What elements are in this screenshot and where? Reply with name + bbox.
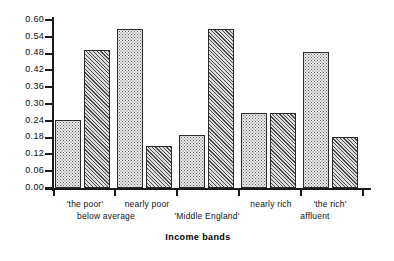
bar-2-the-poor-hatched[interactable]	[84, 50, 110, 188]
bar-9-the-rich-dotted[interactable]	[303, 52, 329, 188]
y-tick-label-0.60: 0.60	[0, 15, 44, 24]
bar-1-the-poor-dotted[interactable]	[55, 120, 81, 188]
group-label-below-average: below average	[50, 211, 162, 221]
y-tick-label-0.24: 0.24	[0, 116, 44, 125]
bar-6-middle-england-hatched[interactable]	[208, 29, 234, 188]
bar-8-nearly-rich-hatched[interactable]	[270, 113, 296, 188]
x-axis-tick	[362, 188, 364, 196]
y-tick-label-0.00: 0.00	[0, 183, 44, 192]
x-axis-line	[45, 188, 371, 190]
bar-3-nearly-poor-dotted[interactable]	[117, 29, 143, 188]
x-axis-tick	[238, 188, 240, 196]
y-tick-label-0.18: 0.18	[0, 132, 44, 141]
band-label-middle-england: 'Middle England'	[155, 211, 259, 221]
plot-area	[53, 20, 365, 188]
band-label-the-rich: 'the rich'	[288, 199, 372, 209]
bar-4-nearly-poor-hatched[interactable]	[146, 146, 172, 188]
bar-chart: 0.60 0.54 0.48 0.42 0.36 0.30 0.24 0.18 …	[0, 0, 394, 261]
x-axis-tick	[53, 188, 55, 196]
x-axis-tick	[114, 188, 116, 196]
y-tick-label-0.36: 0.36	[0, 82, 44, 91]
x-axis-title: Income bands	[118, 232, 278, 243]
y-tick-label-0.06: 0.06	[0, 166, 44, 175]
y-tick-label-0.48: 0.48	[0, 48, 44, 57]
y-tick-label-0.30: 0.30	[0, 99, 44, 108]
group-label-affluent: affluent	[268, 211, 362, 221]
x-axis-tick	[176, 188, 178, 196]
bar-5-middle-england-dotted[interactable]	[179, 135, 205, 188]
bar-10-the-rich-hatched[interactable]	[332, 137, 358, 188]
band-label-nearly-poor: nearly poor	[100, 199, 194, 209]
y-tick-label-0.12: 0.12	[0, 149, 44, 158]
y-tick-label-0.42: 0.42	[0, 65, 44, 74]
bar-7-nearly-rich-dotted[interactable]	[241, 113, 267, 188]
y-tick-label-0.54: 0.54	[0, 32, 44, 41]
x-axis-tick	[300, 188, 302, 196]
